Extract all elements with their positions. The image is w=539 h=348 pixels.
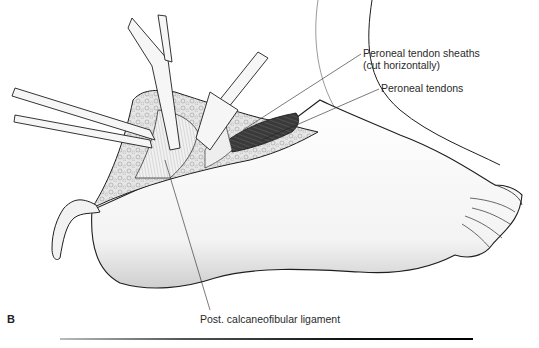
label-post-calcaneofibular-ligament: Post. calcaneofibular ligament [200, 313, 340, 325]
bottom-rule-divider [60, 338, 473, 340]
ankle-crease [316, 0, 336, 110]
label-peroneal-tendon-sheaths-note: (cut horizontally) [363, 59, 440, 71]
label-peroneal-tendons: Peroneal tendons [381, 82, 463, 94]
label-peroneal-tendon-sheaths: Peroneal tendon sheaths [363, 47, 480, 59]
panel-letter: B [7, 313, 15, 325]
